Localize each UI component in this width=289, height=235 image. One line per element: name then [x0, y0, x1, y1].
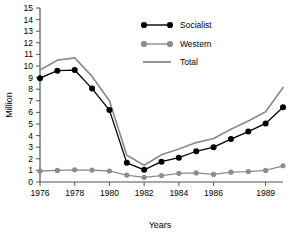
line-chart: 0123456789101112131415 19761978198019821… — [0, 0, 289, 235]
y-tick-label: 6 — [28, 107, 33, 117]
series-total — [40, 58, 283, 165]
data-point-western — [142, 175, 147, 180]
data-point-western — [72, 167, 77, 172]
series-socialist — [37, 67, 286, 173]
data-point-socialist — [176, 155, 182, 161]
y-tick-label: 9 — [28, 73, 33, 83]
data-point-western — [194, 170, 199, 175]
y-tick-label: 5 — [28, 119, 33, 129]
data-point-socialist — [141, 167, 147, 173]
y-axis-title: Million — [4, 92, 14, 118]
plot-axes — [40, 8, 283, 182]
legend-item-total: Total — [143, 57, 198, 67]
x-tick-label: 1984 — [169, 188, 188, 198]
x-tick-label: 1986 — [204, 188, 223, 198]
data-point-western — [107, 168, 112, 173]
series-western — [37, 163, 285, 180]
y-tick-label: 14 — [24, 15, 34, 25]
data-point-western — [246, 169, 251, 174]
legend-label-total: Total — [180, 57, 198, 67]
y-axis-ticks: 0123456789101112131415 — [24, 3, 40, 187]
y-tick-label: 11 — [24, 49, 33, 59]
y-tick-label: 0 — [28, 177, 33, 187]
data-point-western — [263, 168, 268, 173]
data-point-socialist — [280, 104, 286, 110]
y-tick-label: 15 — [24, 3, 34, 13]
y-tick-label: 13 — [24, 26, 34, 36]
data-point-western — [55, 168, 60, 173]
data-point-socialist — [72, 67, 78, 73]
legend-item-socialist: Socialist — [141, 20, 212, 30]
y-tick-label: 8 — [28, 84, 33, 94]
data-point-western — [211, 172, 216, 177]
x-tick-label: 1982 — [135, 188, 154, 198]
y-tick-label: 4 — [28, 131, 33, 141]
x-tick-label: 1978 — [65, 188, 84, 198]
x-tick-label: 1989 — [256, 188, 275, 198]
data-point-socialist — [263, 120, 269, 126]
legend-item-western: Western — [141, 39, 212, 49]
x-tick-label: 1976 — [31, 188, 50, 198]
chart-legend: Socialist Western Total — [141, 20, 212, 67]
data-point-socialist — [245, 129, 251, 135]
data-point-socialist — [106, 107, 112, 113]
y-tick-label: 10 — [24, 61, 34, 71]
legend-marker-western-end — [167, 41, 173, 47]
data-point-western — [228, 170, 233, 175]
legend-marker-socialist-start — [141, 22, 147, 28]
legend-label-socialist: Socialist — [180, 20, 212, 30]
y-tick-label: 7 — [28, 96, 33, 106]
data-point-socialist — [211, 144, 217, 150]
data-point-western — [159, 173, 164, 178]
data-point-socialist — [159, 159, 165, 165]
data-point-western — [280, 163, 285, 168]
series-layer — [37, 58, 286, 180]
legend-label-western: Western — [180, 39, 212, 49]
y-tick-label: 3 — [28, 142, 33, 152]
x-axis-title: Years — [149, 220, 172, 230]
data-point-western — [89, 167, 94, 172]
data-point-western — [176, 171, 181, 176]
data-point-socialist — [89, 86, 95, 92]
chart-container: 0123456789101112131415 19761978198019821… — [0, 0, 289, 235]
series-line-total — [40, 58, 283, 165]
legend-marker-western-start — [141, 41, 147, 47]
y-tick-label: 1 — [28, 165, 33, 175]
data-point-socialist — [54, 68, 60, 74]
x-axis-ticks: 1976197819801982198419861989 — [31, 182, 276, 198]
data-point-socialist — [228, 136, 234, 142]
legend-marker-socialist-end — [167, 22, 173, 28]
y-tick-label: 2 — [28, 154, 33, 164]
data-point-western — [37, 168, 42, 173]
data-point-socialist — [124, 160, 130, 166]
y-tick-label: 12 — [24, 38, 34, 48]
data-point-socialist — [193, 148, 199, 154]
data-point-western — [124, 172, 129, 177]
x-tick-label: 1980 — [100, 188, 119, 198]
data-point-socialist — [37, 75, 43, 81]
